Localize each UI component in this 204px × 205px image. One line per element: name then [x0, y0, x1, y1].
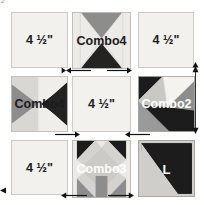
- quilt-block-r3c1[interactable]: 4 ½": [11, 140, 68, 195]
- quilt-block-layout-diagram: 2" 4 ½" Combo4 4 ½": [0, 0, 204, 205]
- quilt-block-r1c3-graphic: [138, 12, 194, 68]
- quilt-block-r2c1-graphic: [11, 76, 68, 132]
- arrow-left-icon: [0, 186, 9, 195]
- seam-arrow-side-vertical: [191, 66, 200, 134]
- seam-arrow-topright-tick: [195, 66, 204, 75]
- quilt-block-r3c2[interactable]: Combo3: [72, 140, 131, 198]
- quilt-block-r1c3[interactable]: 4 ½": [138, 12, 194, 68]
- arrow-vertical-double-icon: [191, 66, 200, 134]
- seam-arrow-bottom-left: [61, 191, 87, 200]
- quilt-block-r3c2-graphic: [72, 140, 131, 198]
- arrow-right-icon: [107, 66, 132, 75]
- quilt-block-r3c1-graphic: [11, 140, 68, 195]
- seam-arrow-left-row1: [44, 66, 66, 75]
- arrow-right-icon: [195, 66, 204, 75]
- arrow-left-icon: [125, 130, 150, 139]
- quilt-block-r1c1[interactable]: 4 ½": [11, 12, 68, 68]
- quilt-block-r2c1[interactable]: Combo4: [11, 76, 68, 132]
- seam-arrow-top-right: [107, 66, 132, 75]
- arrow-right-icon: [44, 66, 66, 75]
- seam-arrow-top-left: [66, 66, 91, 75]
- seam-arrow-bottom-right: [108, 191, 134, 200]
- quilt-block-r1c2[interactable]: Combo4: [72, 12, 131, 69]
- quilt-block-r1c2-graphic: [72, 12, 131, 69]
- corner-measurement-marker: 2": [1, 0, 6, 4]
- quilt-block-r3c3-graphic: [138, 140, 195, 197]
- quilt-block-r2c2-graphic: [72, 76, 131, 132]
- arrow-left-icon: [66, 66, 91, 75]
- quilt-block-r2c3[interactable]: Combo2: [138, 76, 195, 132]
- seam-arrow-mid-right: [125, 130, 150, 139]
- seam-arrow-mid-left: [55, 130, 80, 139]
- quilt-block-r1c1-graphic: [11, 12, 68, 68]
- arrow-right-icon: [55, 130, 80, 139]
- quilt-block-r2c2[interactable]: 4 ½": [72, 76, 131, 132]
- arrow-left-icon: [61, 191, 87, 200]
- seam-arrow-bottomleft-tick: [0, 186, 9, 195]
- arrow-right-icon: [108, 191, 134, 200]
- quilt-block-r3c3[interactable]: L: [138, 140, 195, 197]
- quilt-block-r2c3-graphic: [138, 76, 195, 132]
